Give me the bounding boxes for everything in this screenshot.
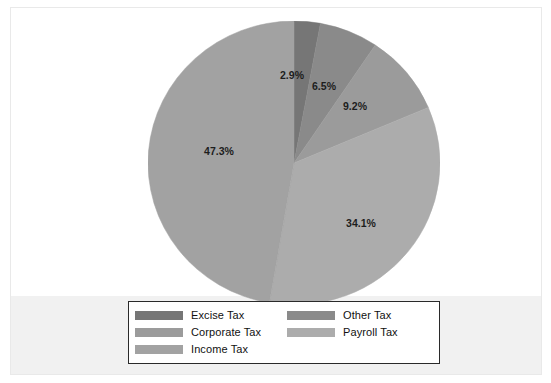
chart-page: 2.9%6.5%9.2%34.1%47.3% Excise TaxOther T… — [0, 0, 551, 383]
legend-item[interactable]: Corporate Tax — [135, 324, 287, 341]
pie-slice-label: 34.1% — [346, 217, 376, 229]
legend-color-swatch — [135, 345, 183, 354]
legend-item[interactable]: Payroll Tax — [287, 324, 439, 341]
legend-item-label: Other Tax — [343, 310, 391, 321]
legend-item-label: Corporate Tax — [191, 327, 261, 338]
pie-slice-label: 47.3% — [204, 145, 234, 157]
legend-grid: Excise TaxOther TaxCorporate TaxPayroll … — [129, 307, 439, 358]
chart-legend: Excise TaxOther TaxCorporate TaxPayroll … — [128, 301, 440, 364]
plot-area: 2.9%6.5%9.2%34.1%47.3% — [11, 8, 541, 296]
pie-slice-label: 6.5% — [312, 80, 337, 92]
legend-item-label: Payroll Tax — [343, 327, 398, 338]
legend-item[interactable]: Income Tax — [135, 341, 287, 358]
legend-color-swatch — [135, 328, 183, 337]
legend-color-swatch — [287, 328, 335, 337]
pie-slice — [148, 21, 294, 303]
pie-slice-label: 2.9% — [280, 69, 305, 81]
legend-item[interactable]: Other Tax — [287, 307, 439, 324]
legend-item[interactable]: Excise Tax — [135, 307, 287, 324]
pie-svg: 2.9%6.5%9.2%34.1%47.3% — [148, 21, 440, 305]
pie-slice-group — [148, 21, 440, 305]
pie-chart: 2.9%6.5%9.2%34.1%47.3% — [148, 21, 440, 305]
legend-item-label: Income Tax — [191, 344, 248, 355]
legend-item-label: Excise Tax — [191, 310, 244, 321]
legend-color-swatch — [135, 311, 183, 320]
legend-color-swatch — [287, 311, 335, 320]
pie-slice-label: 9.2% — [343, 100, 368, 112]
